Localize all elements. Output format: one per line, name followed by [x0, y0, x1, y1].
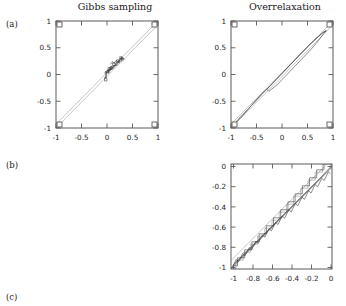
chart-gibbs-sampling: -1 -0.5 0 0.5 1 1 0.5 0 -0.5 -1 — [0, 0, 200, 160]
ytick-label: -0.5 — [212, 97, 226, 106]
ytick-label: -1 — [219, 263, 226, 272]
figure-container: (a) (b) (c) Gibbs sampling Overrelaxatio… — [0, 0, 346, 306]
xtick-label: -1 — [52, 133, 59, 142]
ytick-label: 1 — [221, 17, 226, 26]
xtick-label: -0.5 — [74, 133, 88, 142]
xtick-label: -0.5 — [249, 133, 263, 142]
xtick-label: -0.4 — [285, 274, 299, 283]
ytick-label: 0.5 — [40, 43, 51, 52]
ytick-label: -0.4 — [212, 203, 226, 212]
plot-frame-gibbs — [56, 21, 158, 128]
xtick-label: -0.6 — [265, 274, 279, 283]
xtick-label: 0.5 — [302, 133, 313, 142]
ytick-label: 0.5 — [215, 43, 226, 52]
xtick-label: -1 — [230, 274, 237, 283]
ytick-label: -0.5 — [37, 97, 51, 106]
correlation-band-gibbs — [56, 21, 158, 128]
chart-overrelaxation: -1 -0.5 0 0.5 1 1 0.5 0 -0.5 -1 — [173, 0, 346, 160]
chart-overrelaxation-zoom: -1 -0.8 -0.6 -0.4 -0.2 0 0 -0.2 -0.4 -0.… — [173, 155, 346, 300]
xtick-label: 0.5 — [127, 133, 138, 142]
panel-label-b: (b) — [6, 160, 18, 170]
ytick-label: -1 — [44, 124, 51, 133]
ytick-label: -1 — [219, 124, 226, 133]
xtick-label: -0.2 — [304, 274, 318, 283]
overrelaxation-zigzag-trace — [232, 163, 331, 269]
xtick-label: -1 — [227, 133, 234, 142]
ytick-label: 0 — [46, 70, 51, 79]
xtick-label: 1 — [156, 133, 161, 142]
xtick-label: 0 — [280, 133, 285, 142]
ytick-label: -0.8 — [212, 243, 226, 252]
x-axis-ticks-gibbs — [56, 21, 158, 128]
panel-label-c: (c) — [6, 292, 17, 302]
xtick-label: -0.8 — [246, 274, 260, 283]
ytick-label: -0.2 — [212, 182, 226, 191]
y-axis-ticks-gibbs — [56, 21, 158, 128]
xtick-label: 0 — [329, 274, 334, 283]
ytick-label: 1 — [46, 17, 51, 26]
xtick-label: 1 — [331, 133, 336, 142]
ytick-label: 0 — [221, 70, 226, 79]
xtick-label: 0 — [105, 133, 110, 142]
overrelaxation-trajectory-trace — [231, 31, 326, 128]
ytick-label: -0.6 — [212, 223, 226, 232]
ytick-label: 0 — [221, 162, 226, 171]
